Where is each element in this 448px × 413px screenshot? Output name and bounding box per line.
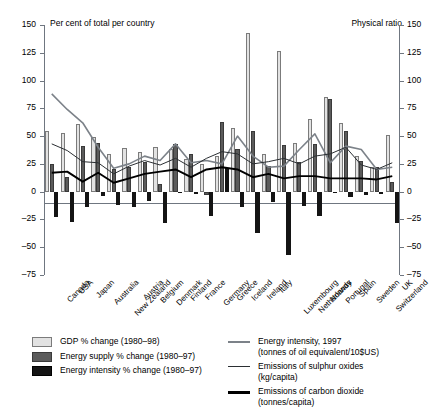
y2-tick: [400, 53, 404, 54]
legend-item-intensity: Energy intensity % change (1980–97): [32, 365, 202, 376]
y2-tick: [400, 275, 404, 276]
y2-tick-label: 25: [407, 158, 416, 168]
legend-item-supply: Energy supply % change (1980–97): [32, 351, 202, 362]
y2-tick: [400, 108, 404, 109]
legend-swatch-icon: [32, 337, 52, 347]
y2-tick-label: 125: [407, 47, 421, 57]
legend-label: Energy intensity % change (1980–97): [60, 365, 202, 376]
y2-tick-label: 150: [407, 19, 421, 29]
line-series-layer: [44, 25, 400, 275]
legend-label: GDP % change (1980–98): [60, 336, 160, 347]
y2-tick-label: –25: [407, 213, 421, 223]
y2-tick-label: 100: [407, 75, 421, 85]
legend-label-units: (tonnes/capita): [258, 397, 364, 408]
y2-tick-label: 0: [407, 186, 412, 196]
legend-lines-column: Energy intensity, 1997(tonnes of oil equ…: [228, 336, 379, 411]
top-artifact-mark: [4, 1, 6, 8]
y-tick-label: 100: [10, 75, 36, 85]
legend-line-icon: [228, 341, 250, 343]
chart-plot-area: 1501251007550250–25–50–75 15012510075502…: [44, 25, 400, 275]
y-tick-label: 125: [10, 47, 36, 57]
y-tick-label: –25: [10, 213, 36, 223]
y2-tick-label: 75: [407, 102, 416, 112]
legend-swatch-icon: [32, 352, 52, 362]
line-energy-intensity-1997: [52, 94, 393, 170]
y-tick-label: 50: [10, 130, 36, 140]
y2-tick-label: 50: [407, 130, 416, 140]
legend-item-gdp: GDP % change (1980–98): [32, 336, 202, 347]
legend-item-energy_intensity_1997: Energy intensity, 1997(tonnes of oil equ…: [228, 336, 379, 357]
legend-label: Emissions of sulphur oxides: [258, 361, 363, 372]
y2-tick-label: –50: [407, 241, 421, 251]
legend-label-wrap: Energy intensity, 1997(tonnes of oil equ…: [258, 336, 379, 357]
x-axis-label: Japan: [94, 278, 116, 300]
y2-tick-label: –75: [407, 269, 421, 279]
y2-tick: [400, 81, 404, 82]
chart-legend: GDP % change (1980–98)Energy supply % ch…: [0, 336, 448, 413]
y-tick-label: –75: [10, 269, 36, 279]
x-axis-label: Sweden: [375, 278, 402, 305]
y-tick-label: 25: [10, 158, 36, 168]
y2-tick: [400, 164, 404, 165]
legend-label: Emissions of carbon dioxide: [258, 386, 364, 397]
legend-label-units: (kg/capita): [258, 372, 363, 383]
legend-bars-column: GDP % change (1980–98)Energy supply % ch…: [32, 336, 202, 380]
legend-label-units: (tonnes of oil equivalent/10$US): [258, 347, 379, 358]
y2-tick: [400, 136, 404, 137]
line-sulphur-oxides: [52, 144, 393, 174]
legend-label: Energy intensity, 1997: [258, 336, 379, 347]
legend-label: Energy supply % change (1980–97): [60, 351, 195, 362]
y2-tick: [400, 192, 404, 193]
x-axis-label: Australia: [112, 278, 140, 306]
legend-swatch-icon: [32, 366, 52, 376]
legend-line-icon: [228, 391, 250, 394]
legend-line-icon: [228, 366, 250, 367]
y-tick-label: –50: [10, 241, 36, 251]
legend-label-wrap: Emissions of sulphur oxides(kg/capita): [258, 361, 363, 382]
x-axis-labels: CanadaUSAJapanAustraliaNew ZealandAustri…: [44, 276, 400, 336]
y2-tick: [400, 219, 404, 220]
legend-label-wrap: Emissions of carbon dioxide(tonnes/capit…: [258, 386, 364, 407]
x-axis-label: USA: [77, 278, 95, 296]
y-tick-label: 0: [10, 186, 36, 196]
legend-item-sulphur_oxides: Emissions of sulphur oxides(kg/capita): [228, 361, 379, 382]
y-tick-label: 150: [10, 19, 36, 29]
legend-item-carbon_dioxide: Emissions of carbon dioxide(tonnes/capit…: [228, 386, 379, 407]
y2-tick: [400, 247, 404, 248]
y-tick-label: 75: [10, 102, 36, 112]
line-carbon-dioxide: [52, 167, 393, 183]
y2-tick: [400, 25, 404, 26]
